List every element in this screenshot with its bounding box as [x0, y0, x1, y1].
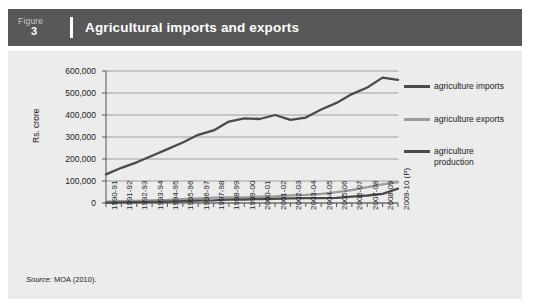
source-note: Source: MOA (2010).	[26, 275, 96, 284]
legend-item[interactable]: agriculture production	[404, 146, 522, 167]
y-tick-label: 100,000	[44, 176, 96, 186]
page-title: Agricultural imports and exports	[85, 20, 299, 35]
x-tick-label: 2007-08	[371, 181, 380, 210]
y-tick-label: 200,000	[44, 154, 96, 164]
figure-root: Figure 3 Agricultural imports and export…	[0, 0, 534, 308]
y-tick-label: 0	[44, 198, 96, 208]
x-tick-label: 2000-01	[263, 181, 272, 210]
source-label: Source:	[26, 275, 52, 284]
x-tick-label: 1999-00	[248, 181, 257, 210]
legend-swatch-icon	[404, 85, 430, 88]
x-tick-label: 1997-98	[217, 181, 226, 210]
figure-number: 3	[18, 26, 70, 38]
y-tick-label: 500,000	[44, 88, 96, 98]
chart-legend: agriculture importsagriculture exportsag…	[404, 81, 522, 190]
figure-word: Figure	[18, 17, 70, 26]
legend-swatch-icon	[404, 118, 430, 121]
x-tick-label: 1998-99	[232, 181, 241, 210]
x-tick-label: 2001-02	[279, 181, 288, 210]
x-tick-label: 1992-93	[140, 181, 149, 210]
x-tick-label: 1993-94	[156, 181, 165, 210]
legend-label: agriculture exports	[434, 114, 504, 125]
y-tick-label: 600,000	[44, 66, 96, 76]
legend-item[interactable]: agriculture imports	[404, 81, 522, 92]
source-text: MOA (2010).	[54, 275, 97, 284]
x-tick-label: 1990-91	[110, 181, 119, 210]
y-tick-label: 300,000	[44, 132, 96, 142]
legend-label: agriculture imports	[434, 81, 504, 92]
x-tick-label: 2006-07	[355, 181, 364, 210]
figure-header: Figure 3 Agricultural imports and export…	[8, 9, 522, 46]
y-axis-label: Rs. crore	[31, 109, 41, 143]
x-tick-label: 1995-96	[186, 181, 195, 210]
x-tick-label: 2004-05	[325, 181, 334, 210]
legend-swatch-icon	[404, 150, 430, 153]
x-tick-label: 2005-06	[340, 181, 349, 210]
x-tick-label: 1991-92	[125, 181, 134, 210]
figure-tag: Figure 3	[8, 17, 70, 37]
x-tick-label: 2008-09	[386, 181, 395, 210]
x-tick-label: 2003-04	[309, 181, 318, 210]
header-divider	[70, 17, 73, 38]
legend-item[interactable]: agriculture exports	[404, 114, 522, 125]
chart-card: 0100,000200,000300,000400,000500,000600,…	[8, 51, 522, 299]
x-tick-label: 1994-95	[171, 181, 180, 210]
x-tick-label: 2002-03	[294, 181, 303, 210]
y-tick-label: 400,000	[44, 110, 96, 120]
legend-label: agriculture production	[434, 146, 514, 167]
x-tick-label: 1996-97	[202, 181, 211, 210]
